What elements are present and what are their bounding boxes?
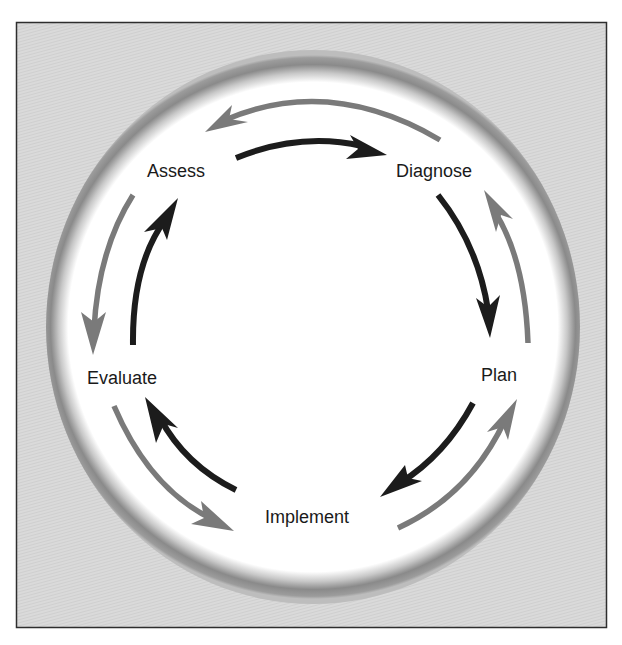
node-label-plan: Plan [481,365,517,385]
cycle-diagram: Assess Diagnose Plan Implement Evaluate [0,0,622,645]
node-label-diagnose: Diagnose [396,161,472,181]
node-label-assess: Assess [147,161,205,181]
node-label-evaluate: Evaluate [87,368,157,388]
node-label-implement: Implement [265,507,349,527]
